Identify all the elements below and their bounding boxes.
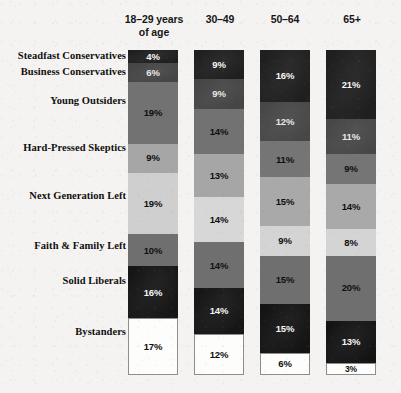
bar-column-30-49: 9% 9% 14% 13% 14% 14% 14% 12% xyxy=(194,50,244,375)
segment-solid-liberals: 16% xyxy=(128,266,178,318)
column-header-65plus: 65+ xyxy=(322,13,382,26)
bar-column-65plus: 21% 11% 9% 14% 8% 20% 13% 3% xyxy=(326,50,376,375)
bar-column-50-64: 16% 12% 11% 15% 9% 15% 15% 6% xyxy=(260,50,310,375)
segment-business-conservatives: 12% xyxy=(260,102,310,141)
segment-bystanders: 6% xyxy=(260,353,310,375)
segment-value: 19% xyxy=(144,108,163,118)
segment-hard-pressed-skeptics: 15% xyxy=(260,177,310,226)
segment-value: 9% xyxy=(212,60,225,70)
column-header-line1: 50–64 xyxy=(255,13,315,26)
segment-value: 13% xyxy=(342,337,361,347)
segment-value: 19% xyxy=(144,199,163,209)
row-label-steadfast-conservatives: Steadfast Conservatives xyxy=(0,50,126,61)
segment-value: 13% xyxy=(210,171,229,181)
segment-value: 14% xyxy=(210,127,229,137)
segment-steadfast-conservatives: 21% xyxy=(326,50,376,119)
segment-value: 9% xyxy=(344,164,357,174)
segment-hard-pressed-skeptics: 14% xyxy=(326,184,376,230)
column-header-line1: 65+ xyxy=(322,13,382,26)
segment-next-generation-left: 9% xyxy=(260,226,310,255)
segment-value: 11% xyxy=(342,132,360,142)
segment-value: 14% xyxy=(210,215,229,225)
segment-value: 9% xyxy=(212,89,225,99)
segment-value: 3% xyxy=(345,365,357,374)
segment-bystanders: 3% xyxy=(326,363,376,375)
stacked-bar-chart: 18–29 years of age 30–49 50–64 65+ Stead… xyxy=(0,0,401,393)
segment-young-outsiders: 11% xyxy=(260,141,310,177)
segment-hard-pressed-skeptics: 13% xyxy=(194,154,244,196)
segment-young-outsiders: 14% xyxy=(194,109,244,155)
segment-value: 8% xyxy=(344,238,357,248)
segment-value: 6% xyxy=(278,359,291,369)
segment-value: 16% xyxy=(276,71,295,81)
segment-value: 9% xyxy=(146,153,159,163)
segment-value: 11% xyxy=(276,155,294,165)
segment-next-generation-left: 8% xyxy=(326,229,376,255)
bar-column-18-29: 4% 6% 19% 9% 19% 10% 16% 17% xyxy=(128,50,178,375)
segment-solid-liberals: 14% xyxy=(194,288,244,334)
segment-faith-family-left: 14% xyxy=(194,242,244,288)
segment-value: 9% xyxy=(278,236,291,246)
segment-young-outsiders: 9% xyxy=(326,154,376,183)
column-header-50-64: 50–64 xyxy=(255,13,315,26)
segment-next-generation-left: 19% xyxy=(128,173,178,234)
row-label-faith-family-left: Faith & Family Left xyxy=(0,240,126,251)
segment-hard-pressed-skeptics: 9% xyxy=(128,144,178,173)
segment-value: 14% xyxy=(210,306,229,316)
segment-value: 14% xyxy=(342,202,361,212)
segment-value: 14% xyxy=(210,261,229,271)
column-header-30-49: 30–49 xyxy=(190,13,250,26)
segment-value: 12% xyxy=(276,117,295,127)
segment-bystanders: 17% xyxy=(128,318,178,375)
row-label-solid-liberals: Solid Liberals xyxy=(0,275,126,286)
column-header-line2: of age xyxy=(124,26,184,39)
segment-solid-liberals: 15% xyxy=(260,304,310,353)
segment-steadfast-conservatives: 4% xyxy=(128,50,178,63)
segment-value: 20% xyxy=(342,283,361,293)
row-label-hard-pressed-skeptics: Hard-Pressed Skeptics xyxy=(0,142,126,153)
row-label-group: Steadfast Conservatives Business Conserv… xyxy=(0,0,126,393)
segment-value: 6% xyxy=(146,68,159,78)
segment-value: 15% xyxy=(276,324,295,334)
segment-steadfast-conservatives: 16% xyxy=(260,50,310,102)
column-header-line1: 18–29 years xyxy=(124,13,184,26)
segment-business-conservatives: 9% xyxy=(194,79,244,108)
column-header-line1: 30–49 xyxy=(190,13,250,26)
segment-business-conservatives: 6% xyxy=(128,63,178,82)
segment-bystanders: 12% xyxy=(194,334,244,375)
row-label-business-conservatives: Business Conservatives xyxy=(0,66,126,77)
segment-next-generation-left: 14% xyxy=(194,197,244,243)
segment-value: 15% xyxy=(276,275,295,285)
segment-business-conservatives: 11% xyxy=(326,119,376,155)
segment-value: 15% xyxy=(276,197,295,207)
segment-value: 21% xyxy=(342,80,361,90)
segment-value: 12% xyxy=(210,350,229,360)
segment-steadfast-conservatives: 9% xyxy=(194,50,244,79)
row-label-young-outsiders: Young Outsiders xyxy=(0,95,126,106)
segment-faith-family-left: 10% xyxy=(128,234,178,266)
segment-faith-family-left: 15% xyxy=(260,256,310,305)
column-header-18-29: 18–29 years of age xyxy=(124,13,184,38)
row-label-bystanders: Bystanders xyxy=(0,326,126,337)
segment-value: 10% xyxy=(144,246,163,256)
segment-value: 17% xyxy=(144,342,163,352)
segment-young-outsiders: 19% xyxy=(128,82,178,143)
row-label-next-generation-left: Next Generation Left xyxy=(0,190,126,201)
segment-value: 4% xyxy=(146,52,159,62)
segment-value: 16% xyxy=(144,288,163,298)
segment-solid-liberals: 13% xyxy=(326,321,376,363)
segment-faith-family-left: 20% xyxy=(326,256,376,321)
